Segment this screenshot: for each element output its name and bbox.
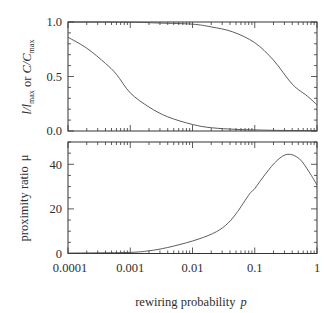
x-axis-title: rewiring probabilityp xyxy=(135,295,247,309)
xlabel-variable-p: p xyxy=(240,295,247,309)
ylabel-mu-symbol: μ xyxy=(17,154,31,161)
y-ticks xyxy=(68,22,317,131)
ylabel-part-path-length: l/l xyxy=(20,103,34,114)
ylabel-part-or: or xyxy=(20,74,34,91)
x-tick-label: 0.001 xyxy=(116,261,144,275)
ylabel-subscript-max: max xyxy=(27,90,36,104)
x-tick-label: 0.01 xyxy=(182,261,204,275)
top-panel: 0.00.51.0 xyxy=(46,15,317,138)
series-line-proximity-ratio xyxy=(68,154,317,253)
y-tick-label: 0 xyxy=(56,247,62,261)
series-group xyxy=(68,22,317,131)
bottom-panel: 020400.00010.0010.010.11 xyxy=(50,142,321,275)
ylabel-part-clustering: C/C xyxy=(20,53,34,74)
line-chart: l/lmax or C/Cmax proximity ratioμ rewiri… xyxy=(0,0,334,313)
series-group xyxy=(68,154,317,253)
y-tick-label: 1.0 xyxy=(46,15,62,29)
figure: l/lmax or C/Cmax proximity ratioμ rewiri… xyxy=(0,0,334,313)
series-line-l-l-max xyxy=(68,37,317,130)
ylabel-text: proximity ratio xyxy=(17,166,31,241)
bottom-y-axis-title: proximity ratioμ xyxy=(17,154,31,241)
x-tick-label: 0.0001 xyxy=(53,261,87,275)
x-tick-label: 1 xyxy=(314,261,320,275)
x-tick-label: 0.1 xyxy=(247,261,263,275)
y-tick-label: 0.5 xyxy=(46,70,62,84)
y-tick-label: 0.0 xyxy=(46,124,62,138)
plot-frame xyxy=(68,22,317,131)
ylabel-subscript-max: max xyxy=(27,40,36,54)
top-y-axis-title: l/lmax or C/Cmax xyxy=(20,40,36,115)
panels: 0.00.51.0020400.00010.0010.010.11 xyxy=(46,15,320,274)
x-ticks xyxy=(68,22,317,131)
xlabel-text: rewiring probability xyxy=(135,295,236,309)
y-tick-label: 20 xyxy=(50,202,63,216)
y-tick-label: 40 xyxy=(50,158,63,172)
